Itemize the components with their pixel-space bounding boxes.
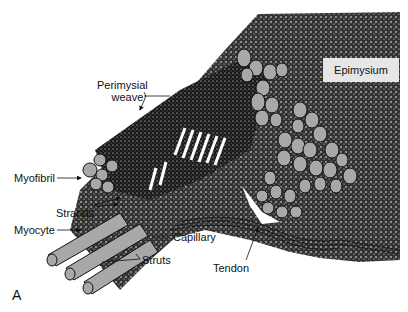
label-perimysial-weave: Perimysial weave: [97, 79, 148, 103]
label-epimysium-text: Epimysium: [334, 64, 388, 76]
label-struts: Struts: [142, 254, 171, 266]
muscle-structure-illustration: [0, 0, 408, 312]
label-myocyte: Myocyte: [14, 224, 55, 236]
label-myofibril: Myofibril: [14, 172, 55, 184]
label-capillary: Capillary: [173, 231, 216, 243]
label-perimysial-line1: Perimysial: [97, 79, 148, 91]
label-epimysium: Epimysium: [323, 58, 399, 82]
panel-label: A: [12, 287, 21, 303]
label-perimysial-line2: weave: [97, 91, 148, 103]
label-tendon: Tendon: [213, 262, 249, 274]
label-strands: Strands: [56, 207, 94, 219]
